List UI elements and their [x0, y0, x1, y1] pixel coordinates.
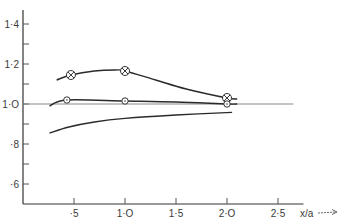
x-tick-label: ·5 [70, 208, 79, 219]
y-tick-label: 1·O [2, 99, 19, 110]
series-line [50, 100, 238, 106]
marker-dot [124, 100, 126, 102]
marker-dot [226, 103, 228, 105]
x-tick-label: 1·5 [169, 208, 184, 219]
marker-dot [66, 99, 68, 101]
x-tick-label: 2·5 [271, 208, 286, 219]
series-line [57, 70, 238, 99]
open-circle-marker [64, 97, 70, 103]
series-group [50, 67, 238, 134]
open-circle-marker [122, 98, 128, 104]
y-tick-label: ·6 [10, 179, 19, 190]
x-axis-label: x/a [300, 208, 314, 219]
y-tick-label: ·8 [10, 139, 19, 150]
crossed-circle-marker [66, 71, 75, 80]
x-tick-label: 2·O [219, 208, 236, 219]
crossed-circle-marker [121, 67, 130, 76]
chart: ·6·81·O1·21·4·51·O1·52·O2·5 x/a [0, 0, 342, 221]
x-tick-label: 1·O [117, 208, 134, 219]
y-tick-label: 1·2 [5, 59, 20, 70]
open-circle-marker [224, 101, 230, 107]
axes: ·6·81·O1·21·4·51·O1·52·O2·5 [2, 10, 303, 219]
x-axis-arrow-icon [318, 210, 337, 215]
series-line [50, 112, 233, 133]
y-tick-label: 1·4 [5, 19, 20, 30]
